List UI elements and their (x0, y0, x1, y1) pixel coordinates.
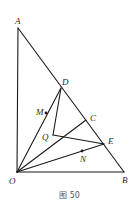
label-A: A (14, 16, 21, 26)
label-M: M (35, 107, 44, 117)
point-labels: AOBDCEQMN (9, 16, 128, 186)
label-Q: Q (42, 132, 49, 142)
point-N-dot (81, 150, 84, 153)
label-N: N (79, 154, 87, 164)
segment-AB (18, 28, 124, 172)
segment-OC (17, 120, 86, 172)
label-C: C (90, 113, 97, 123)
figure-caption: 图 50 (0, 189, 139, 200)
segments (17, 28, 124, 172)
label-E: E (107, 136, 114, 146)
label-D: D (61, 77, 69, 87)
point-M-dot (45, 112, 48, 115)
geometry-figure: AOBDCEQMN (0, 0, 139, 210)
segment-AO (17, 28, 18, 172)
label-O: O (9, 176, 16, 186)
label-B: B (122, 175, 128, 185)
